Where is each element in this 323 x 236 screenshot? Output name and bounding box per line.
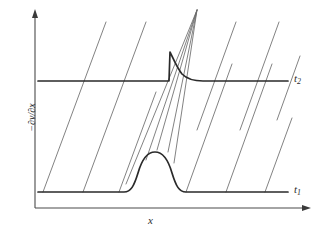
characteristic-line bbox=[197, 22, 236, 130]
curve-label-t1-subscript: 1 bbox=[297, 188, 301, 197]
characteristic-line bbox=[265, 118, 292, 192]
characteristic-line-converging bbox=[174, 10, 197, 163]
characteristic-line-converging bbox=[146, 10, 197, 160]
figure-container: x −∂v/∂x t1 t2 bbox=[0, 0, 323, 236]
characteristic-line bbox=[277, 56, 300, 120]
curve-label-t2-subscript: 2 bbox=[297, 77, 301, 86]
curve-label-t1: t1 bbox=[294, 183, 301, 197]
characteristic-line bbox=[186, 64, 232, 192]
x-axis-label: x bbox=[148, 214, 153, 226]
characteristic-lines-group bbox=[43, 10, 300, 192]
characteristic-line bbox=[83, 22, 146, 192]
shock-formation-figure bbox=[0, 0, 323, 236]
curve-label-t2: t2 bbox=[294, 72, 301, 86]
x-axis-arrow-icon bbox=[302, 205, 311, 211]
characteristic-line bbox=[43, 22, 106, 192]
y-axis-arrow-icon bbox=[32, 9, 38, 18]
profile-curve-t1 bbox=[38, 152, 288, 192]
characteristic-line bbox=[240, 22, 279, 130]
y-axis-label: −∂v/∂x bbox=[26, 81, 37, 155]
characteristic-line bbox=[226, 64, 272, 192]
characteristic-line-converging bbox=[168, 10, 197, 152]
characteristic-line-converging bbox=[126, 10, 197, 184]
profile-curve-t2 bbox=[38, 52, 288, 81]
